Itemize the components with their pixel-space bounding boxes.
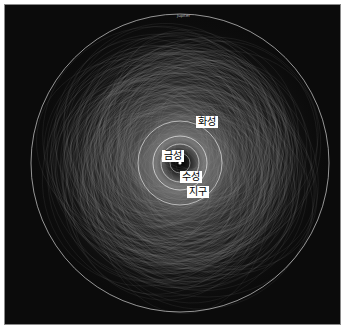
planet-label-earth: 지구 (187, 186, 209, 198)
planet-label-mercury: 수성 (180, 171, 202, 183)
orbit-diagram-panel: Jupiter 화성 금성 수성 지구 (4, 4, 341, 325)
jupiter-label: Jupiter (177, 13, 190, 18)
planet-label-mars: 화성 (196, 116, 218, 128)
planet-label-venus: 금성 (162, 150, 184, 162)
orbit-canvas (5, 5, 341, 325)
